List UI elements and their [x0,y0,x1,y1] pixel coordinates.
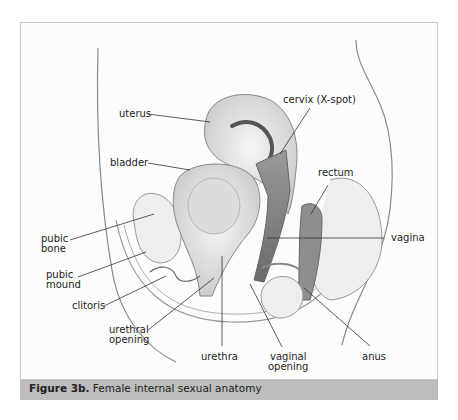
label-urethra: urethra [201,352,238,362]
label-bladder: bladder [110,158,148,168]
label-cervix: cervix (X-spot) [283,95,356,105]
label-anus: anus [362,352,386,362]
label-rectum: rectum [318,168,354,178]
label-urethral-opening: urethral opening [109,325,149,345]
caption-text: Female internal sexual anatomy [90,382,262,394]
label-pubic-mound: pubic mound [46,270,81,290]
label-uterus: uterus [119,109,151,119]
figure-caption: Figure 3b. Female internal sexual anatom… [20,380,438,400]
label-vaginal-opening: vaginal opening [268,352,308,372]
label-clitoris: clitoris [72,301,105,311]
caption-prefix: Figure 3b. [29,382,90,394]
label-vagina: vagina [391,233,425,243]
label-pubic-bone: pubic bone [41,234,68,254]
